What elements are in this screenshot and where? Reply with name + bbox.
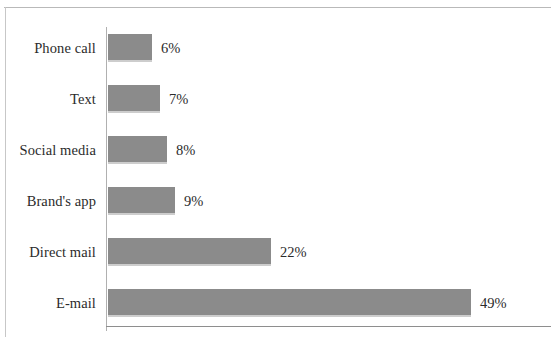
bar-value-label: 9% (184, 186, 203, 216)
bar-rect (108, 85, 160, 113)
category-label: Text (0, 84, 96, 114)
y-axis-line (106, 27, 107, 331)
bar-value-label: 6% (161, 33, 180, 63)
x-axis-line (106, 326, 551, 327)
bar-row: E-mail 49% (0, 288, 551, 318)
bar-chart-figure: Phone call 6% Text 7% Social media 8% Br… (0, 0, 551, 351)
bar-track (108, 289, 471, 317)
bar-row: Direct mail 22% (0, 237, 551, 267)
bar-rect (108, 289, 471, 317)
bar-rect (108, 187, 175, 215)
bar-rect (108, 34, 152, 62)
plot-area: Phone call 6% Text 7% Social media 8% Br… (0, 0, 551, 351)
category-label: Social media (0, 135, 96, 165)
bar-row: Social media 8% (0, 135, 551, 165)
bar-rect (108, 136, 167, 164)
category-label: E-mail (0, 288, 96, 318)
bar-track (108, 136, 167, 164)
bar-value-label: 8% (176, 135, 195, 165)
bar-row: Text 7% (0, 84, 551, 114)
bar-value-label: 22% (280, 237, 307, 267)
bar-rect (108, 238, 271, 266)
bar-track (108, 34, 152, 62)
bar-row: Brand's app 9% (0, 186, 551, 216)
bar-row: Phone call 6% (0, 33, 551, 63)
category-label: Brand's app (0, 186, 96, 216)
bar-track (108, 85, 160, 113)
bar-value-label: 7% (169, 84, 188, 114)
bar-track (108, 238, 271, 266)
category-label: Phone call (0, 33, 96, 63)
bar-track (108, 187, 175, 215)
bar-value-label: 49% (480, 288, 507, 318)
category-label: Direct mail (0, 237, 96, 267)
